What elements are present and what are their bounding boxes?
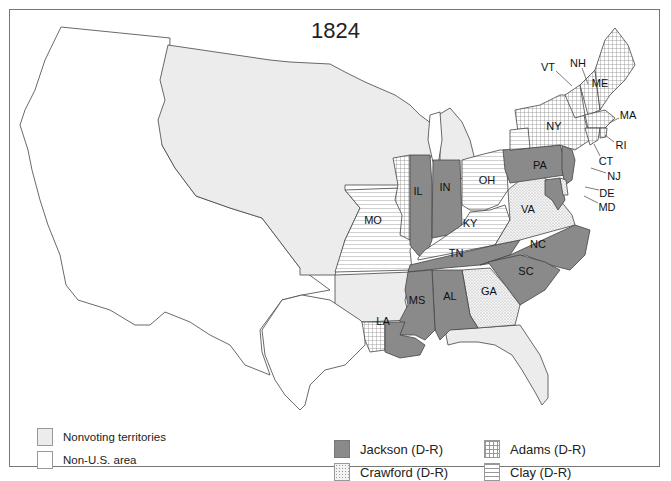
non-us-swatch-icon [37,451,53,469]
label-ky: KY [463,217,478,229]
label-me: ME [592,77,609,89]
label-in: IN [440,181,451,193]
adams-grid-swatch-icon [484,440,500,458]
crawford-dots-swatch-icon [334,463,350,481]
label-de: DE [599,187,614,199]
legend-label: Adams (D-R) [510,442,586,457]
label-tn: TN [449,247,464,259]
legend-jackson: Jackson (D-R) [334,440,443,458]
clay-lines-swatch-icon [484,463,500,481]
legend-label: Non-U.S. area [63,454,137,466]
leader-ri [605,135,614,142]
label-ga: GA [481,285,498,297]
label-va: VA [521,203,536,215]
legend-label: Clay (D-R) [510,465,571,480]
label-oh: OH [479,174,496,186]
nonvoting-swatch-icon [37,428,53,446]
label-ma: MA [620,109,637,121]
legend-non-us-area: Non-U.S. area [37,451,137,469]
legend-clay: Clay (D-R) [484,463,571,481]
state-in [432,160,462,238]
state-ny-clay [510,128,530,150]
state-ri [600,128,607,138]
label-nj: NJ [607,170,620,182]
label-ms: MS [409,294,426,306]
map-title: 1824 [0,18,671,44]
label-la: LA [376,315,390,327]
label-mo: MO [364,214,382,226]
label-pa: PA [533,159,548,171]
jackson-solid-swatch-icon [334,440,350,458]
label-ri: RI [616,139,627,151]
label-sc: SC [518,265,533,277]
legend-label: Crawford (D-R) [360,465,448,480]
nonvoting-territory-florida [445,325,548,405]
legend-label: Nonvoting territories [63,431,166,443]
leader-ct [594,144,600,156]
label-vt: VT [541,61,555,73]
label-il: IL [413,185,422,197]
label-md: MD [598,201,615,213]
label-ct: CT [599,155,614,167]
leader-de [585,187,599,190]
label-ny: NY [546,120,562,132]
state-ct [585,128,600,145]
leader-nj [591,168,606,173]
leader-vt [556,71,572,86]
label-nc: NC [530,238,546,250]
legend-adams: Adams (D-R) [484,440,586,458]
legend-crawford: Crawford (D-R) [334,463,448,481]
legend-nonvoting-territories: Nonvoting territories [37,428,166,446]
label-al: AL [443,290,456,302]
state-il [410,155,432,258]
leader-md [584,196,598,203]
legend-label: Jackson (D-R) [360,442,443,457]
label-nh: NH [570,57,586,69]
